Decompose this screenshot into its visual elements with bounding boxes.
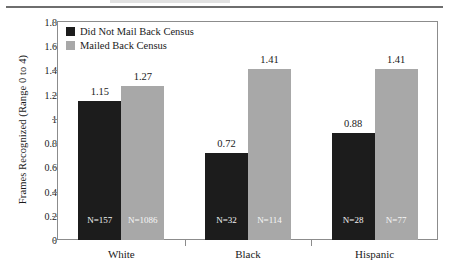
y-tick-mark [52, 240, 57, 241]
bar-sample-size-label: N=77 [375, 215, 418, 225]
x-category-label-white: White [58, 248, 185, 260]
bar-black-series-1[interactable] [205, 153, 248, 240]
bar-sample-size-label: N=114 [248, 215, 291, 225]
y-tick-label: 0.4 [11, 186, 57, 197]
x-axis-separator-tick [311, 240, 312, 246]
legend-item-mailed-back: Mailed Back Census [66, 39, 194, 51]
y-axis-ticks: 1.81.61.41.210.80.60.40.20 [0, 0, 57, 269]
bar-value-label: 1.41 [248, 54, 291, 65]
legend-label-mailed-back: Mailed Back Census [80, 40, 167, 51]
bar-sample-size-label: N=157 [78, 215, 121, 225]
chart-legend: Did Not Mail Back Census Mailed Back Cen… [66, 25, 194, 51]
x-category-label-black: Black [185, 248, 312, 260]
bar-chart-figure: Frames Recognized (Range 0 to 4) 1.81.61… [0, 0, 449, 269]
x-category-label-hispanic: Hispanic [311, 248, 438, 260]
legend-swatch-icon-gray [66, 41, 75, 50]
x-axis-separator-tick [185, 240, 186, 246]
bar-value-label: 1.27 [121, 71, 164, 82]
bar-value-label: 0.88 [332, 118, 375, 129]
bar-sample-size-label: N=32 [205, 215, 248, 225]
y-tick-label: 1.4 [11, 65, 57, 76]
bar-sample-size-label: N=1086 [121, 215, 164, 225]
y-tick-label: 1.2 [11, 89, 57, 100]
legend-item-did-not-mail-back: Did Not Mail Back Census [66, 25, 194, 37]
bar-value-label: 0.72 [205, 138, 248, 149]
y-tick-label: 0.2 [11, 210, 57, 221]
y-tick-label: 1.8 [11, 17, 57, 28]
top-horizontal-rule [6, 6, 443, 8]
bar-value-label: 1.41 [375, 54, 418, 65]
top-rule-artifact [110, 0, 230, 3]
legend-label-did-not-mail-back: Did Not Mail Back Census [80, 26, 194, 37]
bar-value-label: 1.15 [78, 86, 121, 97]
bar-sample-size-label: N=28 [332, 215, 375, 225]
y-tick-label: 0.6 [11, 162, 57, 173]
y-tick-label: 1 [11, 113, 57, 124]
y-tick-label: 0.8 [11, 138, 57, 149]
y-tick-label: 0 [11, 235, 57, 246]
legend-swatch-icon-dark [66, 27, 75, 36]
y-tick-label: 1.6 [11, 41, 57, 52]
